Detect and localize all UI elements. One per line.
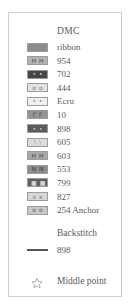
floss-symbol: •• xyxy=(28,98,47,104)
floss-row: HH603 xyxy=(9,150,121,164)
floss-symbol: ■■ xyxy=(28,180,47,186)
middle-point-row: Middle point xyxy=(9,274,121,290)
floss-color-swatch: oo xyxy=(27,206,48,215)
floss-color-swatch: ■■ xyxy=(27,178,48,187)
backstitch-line-icon xyxy=(27,249,48,251)
floss-row: ••Ecru xyxy=(9,95,121,109)
legend-header-dmc: DMC xyxy=(57,26,80,36)
backstitch-section-title: Backstitch xyxy=(57,228,97,238)
floss-label: 827 xyxy=(57,191,71,203)
floss-color-swatch: oo xyxy=(27,83,48,92)
floss-label: 702 xyxy=(57,68,71,80)
floss-symbol: HH xyxy=(28,153,47,159)
floss-label: 603 xyxy=(57,150,71,162)
floss-row: \\605 xyxy=(9,136,121,150)
floss-symbol: xx xyxy=(28,194,47,200)
middle-point-label: Middle point xyxy=(57,275,106,287)
floss-label: 553 xyxy=(57,163,71,175)
floss-row: ••898 xyxy=(9,123,121,137)
floss-symbol: HH xyxy=(28,58,47,64)
floss-color-list: ribbonHH954••702oo444••EcruΓΓ10••898\\60… xyxy=(9,41,121,218)
floss-row: xx827 xyxy=(9,191,121,205)
floss-color-swatch: ΓΓ xyxy=(27,110,48,119)
floss-color-swatch: •• xyxy=(27,97,48,106)
backstitch-label: 898 xyxy=(57,244,71,256)
floss-symbol: ΓΓ xyxy=(28,112,47,118)
floss-color-swatch: xx xyxy=(27,192,48,201)
floss-color-swatch: •• xyxy=(27,124,48,133)
floss-label: 898 xyxy=(57,123,71,135)
floss-label: 799 xyxy=(57,177,71,189)
floss-color-swatch: \\ xyxy=(27,138,48,147)
star-outline-icon xyxy=(31,275,43,287)
floss-label: 605 xyxy=(57,136,71,148)
floss-color-swatch: HH xyxy=(27,151,48,160)
floss-row: ΓΓ10 xyxy=(9,109,121,123)
floss-row: HH954 xyxy=(9,55,121,69)
backstitch-row: 898 xyxy=(9,244,121,258)
floss-label: 444 xyxy=(57,82,71,94)
floss-row: ••702 xyxy=(9,68,121,82)
floss-row: oo254 Anchor xyxy=(9,204,121,218)
floss-row: oo444 xyxy=(9,82,121,96)
floss-label: 10 xyxy=(57,109,66,121)
floss-color-swatch: HH xyxy=(27,56,48,65)
floss-row: NN553 xyxy=(9,163,121,177)
floss-symbol: •• xyxy=(28,126,47,132)
floss-row: ■■799 xyxy=(9,177,121,191)
pattern-legend-card: DMC ribbonHH954••702oo444••EcruΓΓ10••898… xyxy=(8,12,122,297)
floss-symbol: \\ xyxy=(28,139,47,145)
floss-color-swatch: •• xyxy=(27,70,48,79)
floss-color-swatch: NN xyxy=(27,165,48,174)
floss-label: 254 Anchor xyxy=(57,204,99,216)
floss-symbol: •• xyxy=(28,71,47,77)
floss-row: ribbon xyxy=(9,41,121,55)
floss-symbol: NN xyxy=(28,166,47,172)
floss-label: Ecru xyxy=(57,95,74,107)
floss-symbol: oo xyxy=(28,85,47,91)
floss-label: 954 xyxy=(57,55,71,67)
floss-color-swatch xyxy=(27,43,48,52)
legend-inner: DMC ribbonHH954••702oo444••EcruΓΓ10••898… xyxy=(9,13,121,296)
floss-label: ribbon xyxy=(57,41,81,53)
floss-symbol: oo xyxy=(28,207,47,213)
